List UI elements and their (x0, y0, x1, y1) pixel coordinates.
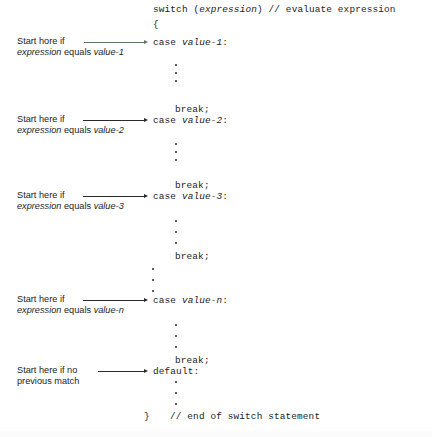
switch-statement-figure: switch (expression) // evaluate expressi… (0, 0, 432, 437)
leader-line-3 (83, 196, 144, 197)
ellipsis-dot (175, 242, 177, 244)
ellipsis-dot (175, 72, 177, 74)
leader-line-4 (83, 300, 144, 301)
leader-line-5 (98, 371, 144, 372)
code-line-break-3: break; (175, 251, 210, 262)
ellipsis-dot (175, 143, 177, 145)
code-line-break-1: break; (175, 104, 210, 115)
annotation-3-line1: Start here if (17, 190, 65, 200)
ellipsis-dot (175, 151, 177, 153)
scan-artifact-band (0, 431, 432, 437)
ellipsis-dot (175, 64, 177, 66)
case-keyword-3: case (153, 191, 182, 202)
ellipsis-dot (175, 335, 177, 337)
annotation-5-line1: Start here if no (17, 365, 77, 375)
ellipsis-dot (152, 290, 154, 292)
annotation-4-expression: expression (17, 305, 61, 315)
annotation-2-equals: equals (61, 125, 93, 135)
switch-header-tail: ) // evaluate expression (257, 4, 396, 15)
code-line-case-n: case value-n: (153, 295, 228, 306)
ellipsis-dot (175, 80, 177, 82)
code-line-break-n: break; (175, 355, 210, 366)
ellipsis-dot (152, 268, 154, 270)
case-value-3: value-3 (182, 191, 222, 202)
code-line-end-comment: // end of switch statement (170, 411, 320, 422)
annotation-3-expression: expression (17, 201, 61, 211)
switch-expression-italic: expression (199, 4, 257, 15)
switch-keyword: switch ( (153, 4, 199, 15)
arrowhead-2-icon (144, 118, 148, 122)
ellipsis-dot (175, 324, 177, 326)
annotation-1-equals: equals (61, 47, 93, 57)
annotation-1-expression: expression (17, 47, 61, 57)
annotation-5-line2: previous match (17, 376, 79, 386)
case-value-1: value-1 (182, 37, 222, 48)
annotation-4-line1: Start here if (17, 294, 65, 304)
annotation-label-3: Start here if expression equals value-3 (17, 190, 124, 213)
annotation-2-expression: expression (17, 125, 61, 135)
code-line-case-3: case value-3: (153, 191, 228, 202)
leader-line-1 (84, 42, 144, 43)
case-colon-1: : (222, 37, 228, 48)
code-line-case-1: case value-1: (153, 37, 228, 48)
case-colon-n: : (222, 295, 228, 306)
annotation-3-equals: equals (61, 201, 93, 211)
code-line-default: default: (153, 366, 199, 377)
leader-line-2 (83, 120, 144, 121)
ellipsis-dot (175, 346, 177, 348)
ellipsis-dot (152, 279, 154, 281)
case-value-2: value-2 (182, 115, 222, 126)
code-line-switch-header: switch (expression) // evaluate expressi… (153, 4, 396, 15)
default-colon: : (193, 366, 199, 377)
ellipsis-dot (175, 403, 177, 405)
ellipsis-dot (175, 231, 177, 233)
arrowhead-1-icon (144, 40, 148, 44)
case-value-n: value-n (182, 295, 222, 306)
annotation-1-value: value-1 (94, 47, 124, 57)
annotation-label-5: Start here if no previous match (17, 365, 79, 388)
default-keyword: default (153, 366, 193, 377)
case-keyword-n: case (153, 295, 182, 306)
annotation-4-value: value-n (94, 305, 124, 315)
annotation-2-line1: Start here if (17, 114, 65, 124)
arrowhead-4-icon (144, 298, 148, 302)
code-line-open-brace: { (153, 19, 159, 30)
annotation-label-4: Start here if expression equals value-n (17, 294, 124, 317)
arrowhead-5-icon (144, 369, 148, 373)
annotation-label-1: Start hore if expression equals value-1 (17, 36, 124, 59)
code-line-break-2: break; (175, 180, 210, 191)
annotation-2-value: value-2 (94, 125, 124, 135)
ellipsis-dot (175, 220, 177, 222)
ellipsis-dot (175, 392, 177, 394)
annotation-3-value: value-3 (94, 201, 124, 211)
code-line-case-2: case value-2: (153, 115, 228, 126)
annotation-1-line1: Start hore if (17, 36, 65, 46)
case-keyword-2: case (153, 115, 182, 126)
ellipsis-dot (175, 159, 177, 161)
case-colon-3: : (222, 191, 228, 202)
code-line-close-brace: } (144, 411, 150, 422)
arrowhead-3-icon (144, 194, 148, 198)
annotation-label-2: Start here if expression equals value-2 (17, 114, 124, 137)
case-keyword-1: case (153, 37, 182, 48)
ellipsis-dot (175, 381, 177, 383)
case-colon-2: : (222, 115, 228, 126)
annotation-4-equals: equals (61, 305, 93, 315)
